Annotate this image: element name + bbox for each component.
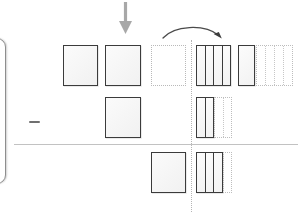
stripe-column — [223, 46, 231, 85]
tile-r1-c2 — [105, 45, 141, 86]
tile-r3-c1 — [151, 152, 186, 193]
stripe-column — [197, 98, 206, 137]
stripe-column — [214, 46, 223, 85]
ghost-striped-block-r3 — [223, 152, 232, 193]
stripe-column — [206, 153, 215, 192]
ghost-stripe-column — [224, 98, 232, 137]
striped-block-r1-a — [196, 45, 231, 86]
ghost-stripe-column — [215, 98, 224, 137]
striped-block-r3 — [196, 152, 223, 193]
ghost-stripe-column — [284, 46, 292, 85]
stripe-column — [197, 46, 206, 85]
vertical-dotted-rule — [191, 40, 192, 212]
ghost-striped-block-r1 — [256, 45, 293, 86]
tile-r2-c1 — [105, 97, 141, 138]
ghost-stripe-column — [266, 46, 275, 85]
ghost-striped-block-r2 — [214, 97, 232, 138]
minus-sign — [29, 121, 40, 123]
ghost-tile-r1-c3 — [151, 45, 186, 86]
horizontal-rule — [14, 144, 298, 145]
striped-block-r2 — [196, 97, 214, 138]
left-panel-edge — [0, 38, 6, 184]
stripe-column — [239, 46, 254, 85]
ghost-stripe-column — [224, 153, 231, 192]
striped-block-r1-b — [238, 45, 255, 86]
curved-arrow — [160, 24, 228, 44]
stripe-column — [206, 46, 215, 85]
stripe-column — [206, 98, 214, 137]
figure-canvas — [0, 0, 298, 212]
ghost-stripe-column — [275, 46, 284, 85]
ghost-stripe-column — [257, 46, 266, 85]
down-arrow — [117, 0, 134, 38]
stripe-column — [214, 153, 222, 192]
tile-r1-c1 — [63, 45, 98, 86]
stripe-column — [197, 153, 206, 192]
